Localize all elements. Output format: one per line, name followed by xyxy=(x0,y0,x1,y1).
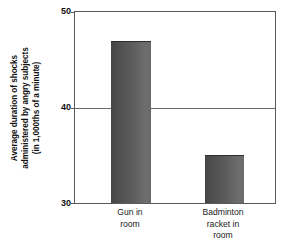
x-label-badminton-racket-in-room: Badminton racket in room xyxy=(175,207,271,242)
x-label-badminton-line-3: room xyxy=(175,230,271,242)
y-axis-title-line-1: Average duration of shocks xyxy=(9,11,20,204)
y-axis-tick-labels: 50 40 30 xyxy=(44,0,71,248)
y-axis-title-line-3: (in 1,000ths of a minute) xyxy=(32,11,43,204)
y-tick-label-40: 40 xyxy=(45,103,71,112)
tick-mark-50 xyxy=(71,12,75,13)
x-label-gun-line-2: room xyxy=(82,219,178,231)
bar-badminton-racket-in-room xyxy=(205,155,244,203)
y-axis-title: Average duration of shocks administered … xyxy=(4,11,48,204)
x-label-badminton-line-2: racket in xyxy=(175,219,271,231)
bar-gun-in-room xyxy=(111,41,151,203)
gridline-40 xyxy=(75,108,275,109)
y-tick-label-50: 50 xyxy=(45,7,71,16)
y-tick-label-30: 30 xyxy=(45,199,71,208)
x-label-badminton-line-1: Badminton xyxy=(175,207,271,219)
x-label-gun-in-room: Gun in room xyxy=(82,207,178,230)
plot-area xyxy=(74,11,276,204)
tick-mark-40 xyxy=(71,108,75,109)
bar-chart: Average duration of shocks administered … xyxy=(0,0,288,248)
tick-mark-30 xyxy=(71,203,75,204)
y-axis-title-line-2: administered by angry subjects xyxy=(20,11,31,204)
x-axis-category-labels: Gun in room Badminton racket in room xyxy=(74,207,276,248)
x-label-gun-line-1: Gun in xyxy=(82,207,178,219)
